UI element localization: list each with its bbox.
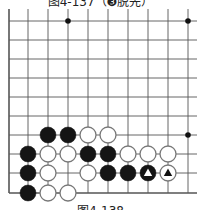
black-stone-icon	[20, 146, 36, 162]
white-stone-icon	[40, 185, 56, 201]
star-point-icon	[65, 18, 71, 24]
white-stone-icon	[40, 165, 56, 181]
black-stone-icon	[20, 165, 36, 181]
go-board-diagram	[0, 0, 201, 210]
black-stone-icon	[20, 185, 36, 201]
white-stone-icon	[60, 185, 76, 201]
black-stone-icon	[40, 127, 56, 143]
black-stone-icon	[80, 146, 96, 162]
white-stone-icon	[80, 127, 96, 143]
white-stone-icon	[80, 165, 96, 181]
white-stone-icon	[120, 146, 136, 162]
white-stone-icon	[140, 146, 156, 162]
black-stone-icon	[120, 165, 136, 181]
star-point-icon	[185, 18, 191, 24]
black-stone-icon	[60, 127, 76, 143]
black-stone-icon	[100, 165, 116, 181]
white-stone-icon	[40, 146, 56, 162]
white-stone-icon	[160, 146, 176, 162]
star-point-icon	[185, 132, 191, 138]
stones	[20, 127, 176, 201]
white-stone-icon	[60, 146, 76, 162]
black-stone-icon	[100, 146, 116, 162]
figure-caption-bottom: 图4-138	[0, 201, 201, 210]
white-stone-icon	[100, 127, 116, 143]
